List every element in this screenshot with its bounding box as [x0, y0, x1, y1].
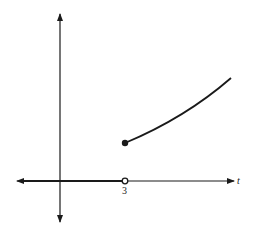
- filled-point: [122, 140, 128, 146]
- function-curve: [125, 78, 231, 143]
- tick-label-3: 3: [122, 185, 127, 196]
- x-axis-label: t: [237, 175, 240, 186]
- piecewise-graph: 3 t: [0, 0, 257, 240]
- open-point: [122, 178, 128, 184]
